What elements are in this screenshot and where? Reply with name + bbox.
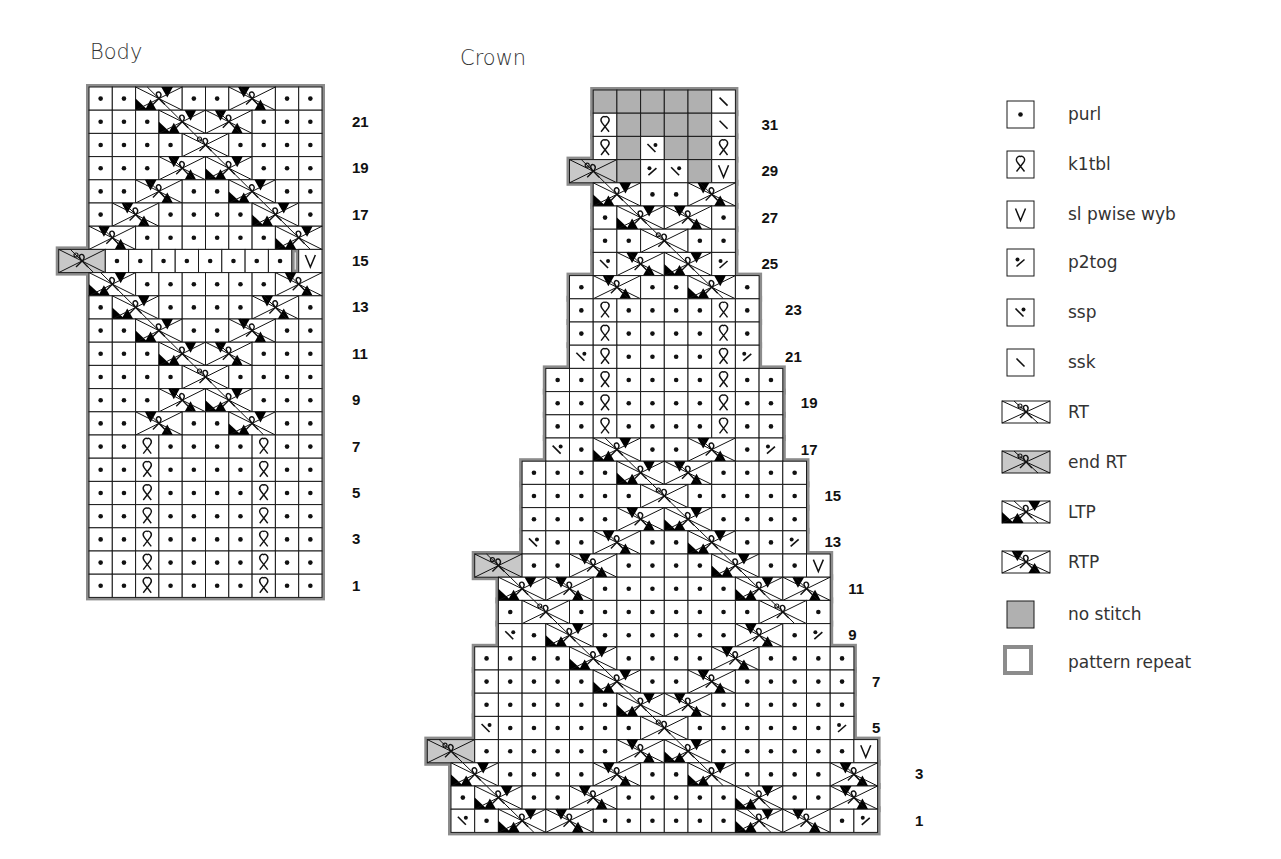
chart-row-12 [89, 319, 322, 342]
legend-label: no stitch [1068, 604, 1142, 624]
chart-row-8 [475, 647, 854, 670]
chart-row-7 [89, 435, 322, 458]
row-number: 5 [352, 484, 360, 501]
row-number: 31 [761, 116, 778, 133]
legend-label: purl [1068, 104, 1101, 124]
chart-row-6 [475, 693, 854, 716]
legend-label: RTP [1068, 552, 1099, 572]
chart-row-15 [59, 249, 322, 272]
row-number: 9 [848, 626, 856, 643]
row-number: 13 [352, 298, 369, 315]
row-number: 13 [825, 533, 842, 550]
row-number: 19 [352, 159, 369, 176]
legend-label: end RT [1068, 452, 1126, 472]
rt-symbol-icon [1000, 395, 1060, 429]
chart-row-12 [475, 554, 831, 577]
row-number: 7 [352, 438, 360, 455]
chart-row-3 [89, 528, 322, 551]
chart-row-21 [570, 345, 760, 368]
row-number: 21 [785, 348, 802, 365]
chart-row-20 [546, 368, 783, 391]
chart-row-18 [546, 415, 783, 438]
chart-row-6 [89, 458, 322, 481]
rep-symbol-icon [1000, 645, 1060, 679]
chart-row-30 [593, 136, 735, 159]
row-number: 29 [761, 162, 778, 179]
legend-item-v: sl pwise wyb [1000, 197, 1060, 231]
chart-body [56, 84, 325, 600]
chart-row-31 [593, 113, 735, 136]
chart-row-9 [89, 389, 322, 412]
chart-row-16 [89, 226, 322, 249]
row-number: 15 [825, 487, 842, 504]
chart-row-5 [475, 716, 854, 739]
chart-row-4 [427, 740, 877, 763]
chart-row-29 [570, 160, 736, 183]
k-symbol-icon [1000, 147, 1060, 181]
row-number: 17 [801, 441, 818, 458]
chart-row-8 [89, 412, 322, 435]
chart-row-2 [89, 551, 322, 574]
chart-row-24 [570, 276, 760, 299]
legend-label: RT [1068, 402, 1089, 422]
row-number: 27 [761, 209, 778, 226]
chart-row-5 [89, 481, 322, 504]
chart-row-15 [522, 484, 806, 507]
row-number: 23 [785, 301, 802, 318]
legend-label: pattern repeat [1068, 652, 1191, 672]
ns-symbol-icon [1000, 597, 1060, 631]
row-number: 1 [352, 577, 360, 594]
rtp-symbol-icon [1000, 545, 1060, 579]
chart-row-1 [451, 809, 878, 832]
row-number: 15 [352, 252, 369, 269]
legend-label: sl pwise wyb [1068, 204, 1176, 224]
legend-item-rt: RT [1000, 395, 1060, 429]
sk-symbol-icon [1000, 345, 1060, 379]
chart-row-14 [89, 273, 322, 296]
chart-crown [424, 87, 880, 835]
chart-row-20 [89, 133, 322, 156]
legend-label: ssk [1068, 352, 1096, 372]
chart-row-7 [475, 670, 854, 693]
row-number: 1 [915, 812, 923, 829]
legend-item-k: k1tbl [1000, 147, 1060, 181]
chart-row-22 [570, 322, 760, 345]
row-number: 5 [872, 719, 880, 736]
chart-row-10 [498, 600, 830, 623]
chart-row-11 [498, 577, 830, 600]
chart-row-10 [89, 365, 322, 388]
row-number: 21 [352, 113, 369, 130]
legend-label: p2tog [1068, 252, 1117, 272]
chart-row-26 [593, 229, 735, 252]
v-symbol-icon [1000, 197, 1060, 231]
chart-row-4 [89, 505, 322, 528]
row-number: 17 [352, 206, 369, 223]
chart-row-9 [498, 624, 830, 647]
chart-row-21 [89, 110, 322, 133]
legend-item-p: purl [1000, 97, 1060, 131]
legend-item-rtp: RTP [1000, 545, 1060, 579]
legend-label: k1tbl [1068, 154, 1111, 174]
legend-item-ltp: LTP [1000, 495, 1060, 529]
p-symbol-icon [1000, 97, 1060, 131]
row-number: 3 [352, 530, 360, 547]
chart-row-17 [89, 203, 322, 226]
chart-row-19 [89, 157, 322, 180]
chart-row-14 [522, 508, 806, 531]
ltp-symbol-icon [1000, 495, 1060, 529]
p2-symbol-icon [1000, 245, 1060, 279]
legend-item-sk: ssk [1000, 345, 1060, 379]
legend-label: LTP [1068, 502, 1096, 522]
chart-row-16 [522, 461, 806, 484]
chart-row-13 [89, 296, 322, 319]
chart-row-17 [546, 438, 783, 461]
legend-label: ssp [1068, 302, 1097, 322]
row-number: 7 [872, 673, 880, 690]
row-number: 9 [352, 391, 360, 408]
ss-symbol-icon [1000, 295, 1060, 329]
chart-row-27 [593, 206, 735, 229]
chart-row-13 [522, 531, 806, 554]
chart-row-2 [451, 786, 878, 809]
legend-item-ert: end RT [1000, 445, 1060, 479]
chart-row-18 [89, 180, 322, 203]
